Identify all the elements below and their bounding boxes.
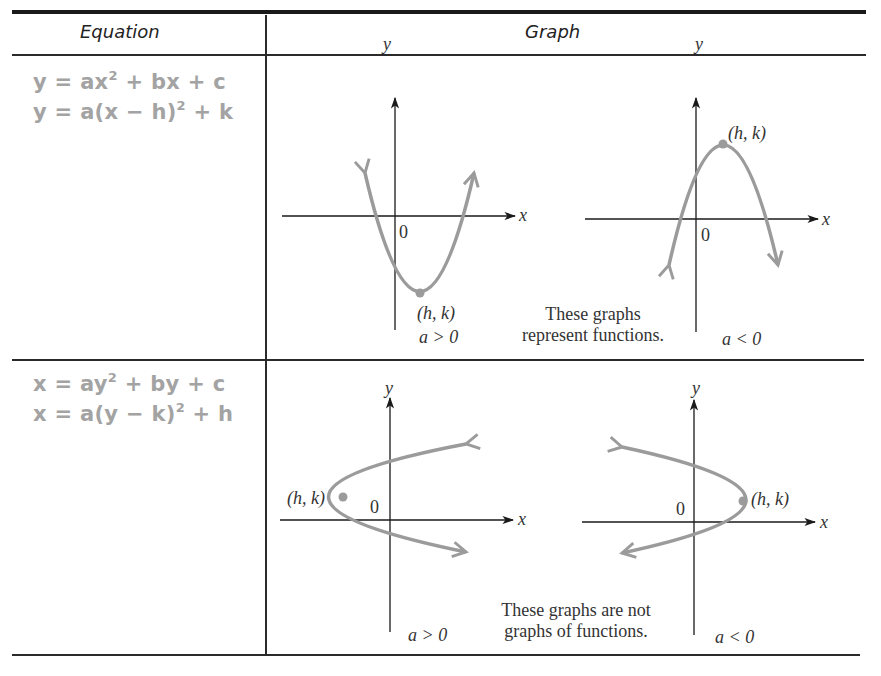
y-axis-label: y bbox=[695, 34, 703, 55]
graph-parabola-left bbox=[570, 360, 870, 660]
y-axis-label: y bbox=[383, 34, 391, 55]
x-axis-label: x bbox=[822, 209, 830, 230]
equation-vertex-vertical: y = a(x − h)2 + k bbox=[33, 98, 233, 124]
header-rule bbox=[12, 54, 866, 56]
vertex-point bbox=[739, 497, 748, 506]
vertex-point bbox=[416, 289, 425, 298]
vertex-label: (h, k) bbox=[417, 303, 455, 324]
origin-label: 0 bbox=[370, 497, 379, 518]
column-divider bbox=[265, 15, 267, 656]
x-axis-label: x bbox=[519, 205, 527, 226]
origin-label: 0 bbox=[399, 222, 408, 243]
vertex-point bbox=[339, 493, 348, 502]
equation-vertex-horizontal: x = a(y − k)2 + h bbox=[33, 400, 233, 426]
vertex-point bbox=[719, 140, 728, 149]
vertex-label: (h, k) bbox=[728, 123, 766, 144]
origin-label: 0 bbox=[676, 499, 685, 520]
vertex-label: (h, k) bbox=[287, 488, 325, 509]
condition-label: a > 0 bbox=[408, 625, 447, 646]
header-equation: Equation bbox=[80, 21, 160, 42]
table-top-rule bbox=[12, 10, 866, 14]
y-axis-label: y bbox=[385, 378, 393, 399]
condition-label: a < 0 bbox=[722, 329, 761, 350]
x-axis-label: x bbox=[820, 512, 828, 533]
condition-label: a > 0 bbox=[419, 327, 458, 348]
parabola-curve bbox=[329, 444, 467, 552]
parabola-curve bbox=[669, 145, 778, 265]
header-graph: Graph bbox=[525, 21, 580, 42]
equation-standard-vertical: y = ax2 + bx + c bbox=[33, 68, 226, 94]
origin-label: 0 bbox=[701, 225, 710, 246]
x-axis-label: x bbox=[518, 509, 526, 530]
parabola-curve bbox=[365, 173, 474, 292]
condition-label: a < 0 bbox=[715, 627, 754, 648]
equation-standard-horizontal: x = ay2 + by + c bbox=[33, 370, 225, 396]
y-axis-label: y bbox=[692, 378, 700, 399]
vertex-label: (h, k) bbox=[751, 489, 789, 510]
